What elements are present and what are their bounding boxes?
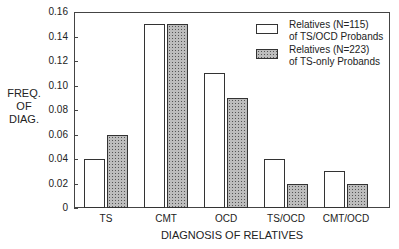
bar-ts-series-2: [107, 135, 128, 209]
bar-cmt-series-2: [167, 24, 188, 208]
y-tick-label: 0.04: [28, 154, 68, 164]
y-tick-label: 0.06: [28, 130, 68, 140]
y-tick-mark: [74, 86, 78, 87]
legend-2-line-1: Relatives (N=223): [289, 44, 380, 56]
y-tick-mark: [74, 208, 78, 209]
y-tick-mark: [74, 12, 78, 13]
legend-1-line-1: Relatives (N=115): [289, 19, 383, 31]
y-tick-mark: [74, 159, 78, 160]
bar-cmt-series-1: [144, 24, 165, 208]
y-tick-mark: [74, 37, 78, 38]
y-tick-label: 0.02: [28, 179, 68, 189]
legend-label-1: Relatives (N=115) of TS/OCD Probands: [289, 19, 383, 43]
y-tick-label: 0.14: [28, 32, 68, 42]
x-tick-label: CMT/OCD: [316, 213, 376, 224]
x-tick-label: CMT: [136, 213, 196, 224]
x-tick-label: TS/OCD: [256, 213, 316, 224]
x-tick-label: TS: [76, 213, 136, 224]
y-tick-mark: [74, 135, 78, 136]
y-tick-label: 0.10: [28, 81, 68, 91]
bar-ts-ocd-series-1: [264, 159, 285, 208]
x-tick-label: OCD: [196, 213, 256, 224]
bar-cmt-ocd-series-2: [347, 184, 368, 209]
y-tick-label: 0.12: [28, 56, 68, 66]
legend-swatch-open: [256, 24, 278, 34]
y-tick-label: 0.08: [28, 105, 68, 115]
y-tick-mark: [74, 184, 78, 185]
y-tick-mark: [74, 61, 78, 62]
bar-ocd-series-2: [227, 98, 248, 208]
legend-swatch-dotted: [256, 49, 278, 59]
x-axis-label: DIAGNOSIS OF RELATIVES: [74, 229, 390, 241]
legend-label-2: Relatives (N=223) of TS-only Probands: [289, 44, 380, 68]
legend-2-line-2: of TS-only Probands: [289, 56, 380, 68]
y-tick-label: 0.16: [28, 7, 68, 17]
y-tick-mark: [74, 110, 78, 111]
legend-1-line-2: of TS/OCD Probands: [289, 31, 383, 43]
bar-cmt-ocd-series-1: [324, 171, 345, 208]
bar-ts-ocd-series-2: [287, 184, 308, 209]
bar-ts-series-1: [84, 159, 105, 208]
y-tick-label: 0: [28, 203, 68, 213]
bar-ocd-series-1: [204, 73, 225, 208]
